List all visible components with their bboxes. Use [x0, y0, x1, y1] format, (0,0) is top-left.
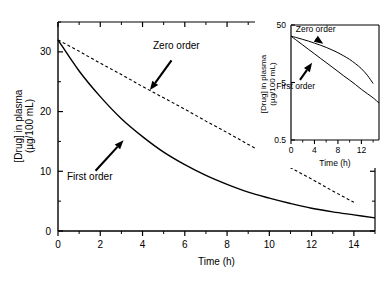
main-ytick-label: 0 [45, 226, 51, 237]
main-ytick-label: 10 [40, 166, 52, 177]
inset-xaxis-title: Time (h) [319, 158, 350, 168]
inset-annotation-zero-order: Zero order [296, 24, 336, 34]
inset-xtick-label: 8 [336, 145, 341, 155]
drug-elimination-kinetics-figure: 024681012140102030Zero orderFirst orderT… [0, 0, 392, 283]
main-ytick-label: 30 [40, 46, 52, 57]
main-xtick-label: 14 [348, 239, 360, 250]
main-annotation-first-order: First order [67, 171, 113, 182]
main-xtick-label: 6 [182, 239, 188, 250]
main-xaxis-title: Time (h) [198, 256, 235, 267]
main-annotation-zero-order: Zero order [153, 40, 200, 51]
main-xtick-label: 12 [306, 239, 318, 250]
inset-xtick-label: 0 [289, 145, 294, 155]
inset-yaxis-title: [Drug] in plasma(µg/100 mL) [259, 54, 277, 113]
main-yaxis-title-line1: [Drug] in plasma [13, 89, 24, 162]
main-xtick-label: 0 [55, 239, 61, 250]
main-yaxis-title: [Drug] in plasma(µg/100 mL) [13, 89, 35, 162]
main-xtick-label: 8 [224, 239, 230, 250]
inset-yaxis-title-line1: [Drug] in plasma [259, 54, 268, 113]
inset-xtick-label: 4 [312, 145, 317, 155]
inset-annotation-first-order: First order [276, 81, 315, 91]
main-arrow-zero-order [150, 60, 172, 90]
main-arrow-first-order [96, 140, 124, 171]
main-yaxis-title-line2: (µg/100 mL) [24, 99, 35, 153]
inset-xtick-label: 12 [357, 145, 367, 155]
figure-canvas: 024681012140102030Zero orderFirst orderT… [0, 0, 392, 283]
inset-yaxis-title-line2: (µg/100 mL) [268, 62, 277, 106]
main-ytick-label: 20 [40, 106, 52, 117]
inset-ytick-label: 50 [277, 20, 287, 30]
main-xtick-label: 2 [97, 239, 103, 250]
main-xtick-label: 4 [140, 239, 146, 250]
main-xtick-label: 10 [264, 239, 276, 250]
inset-ytick-label: 0.5 [274, 135, 286, 145]
